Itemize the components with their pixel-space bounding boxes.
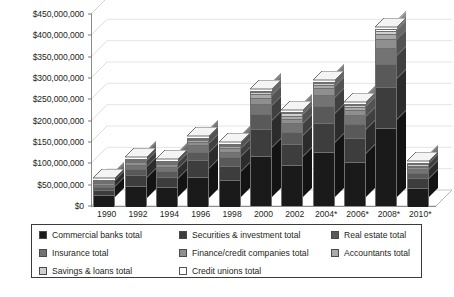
y-axis-tick: [88, 99, 92, 100]
x-axis-tick-label: 2008*: [373, 209, 404, 219]
y-axis-tick-label: $100,000,000: [33, 158, 84, 168]
y-axis-tick: [88, 14, 92, 15]
y-axis-tick: [88, 56, 92, 57]
y-axis-tick-label: $200,000,000: [33, 116, 84, 126]
y-axis-tick-label: $0: [75, 201, 84, 211]
legend-label: Real estate total: [344, 230, 406, 240]
legend-label: Finance/credit companies total: [192, 248, 309, 258]
legend-item[interactable]: Savings & loans total: [39, 266, 132, 276]
y-axis-tick: [88, 78, 92, 79]
y-axis-tick: [88, 35, 92, 36]
x-axis-tick-label: 1994: [154, 209, 185, 219]
y-axis-tick-label: $300,000,000: [33, 73, 84, 83]
y-axis-tick-label: $400,000,000: [33, 30, 84, 40]
legend-item[interactable]: Finance/credit companies total: [179, 248, 309, 258]
legend-item[interactable]: Commercial banks total: [39, 230, 142, 240]
legend-swatch: [179, 231, 187, 239]
y-axis-tick: [88, 142, 92, 143]
legend-label: Savings & loans total: [52, 266, 132, 276]
y-axis-labels: $450,000,000$400,000,000$350,000,000$300…: [0, 0, 88, 210]
x-axis-tick-label: 2006*: [342, 209, 373, 219]
legend-swatch: [331, 231, 339, 239]
legend-label: Accountants total: [344, 248, 410, 258]
legend-swatch: [331, 249, 339, 257]
x-axis-labels: 19901992199419961998200020022004*2006*20…: [91, 0, 436, 222]
x-axis-tick-label: 1998: [216, 209, 247, 219]
y-axis-tick-label: $150,000,000: [33, 137, 84, 147]
y-axis-tick: [88, 206, 92, 207]
legend-swatch: [39, 267, 47, 275]
legend-item[interactable]: Credit unions total: [179, 266, 261, 276]
legend-swatch: [39, 231, 47, 239]
x-axis-tick-label: 1992: [122, 209, 153, 219]
legend-label: Commercial banks total: [52, 230, 142, 240]
legend: Commercial banks totalSecurities & inves…: [31, 222, 423, 280]
legend-swatch: [39, 249, 47, 257]
legend-swatch: [179, 267, 187, 275]
y-axis-tick-label: $50,000,000: [37, 180, 84, 190]
legend-item[interactable]: Accountants total: [331, 248, 410, 258]
y-axis-tick-label: $250,000,000: [33, 94, 84, 104]
y-axis-tick: [88, 163, 92, 164]
legend-label: Insurance total: [52, 248, 108, 258]
legend-label: Credit unions total: [192, 266, 261, 276]
legend-item[interactable]: Insurance total: [39, 248, 108, 258]
y-axis-tick: [88, 120, 92, 121]
legend-label: Securities & investment total: [192, 230, 300, 240]
legend-swatch: [179, 249, 187, 257]
x-axis-tick-label: 2004*: [311, 209, 342, 219]
plot-area: $450,000,000$400,000,000$350,000,000$300…: [0, 0, 454, 222]
y-axis-tick: [88, 184, 92, 185]
x-axis-tick-label: 2000: [248, 209, 279, 219]
legend-item[interactable]: Real estate total: [331, 230, 406, 240]
y-axis-tick-label: $350,000,000: [33, 52, 84, 62]
stacked-column-chart: $450,000,000$400,000,000$350,000,000$300…: [0, 0, 454, 297]
x-axis-tick-label: 2002: [279, 209, 310, 219]
y-axis-tick-label: $450,000,000: [33, 9, 84, 19]
x-axis-tick-label: 1996: [185, 209, 216, 219]
legend-item[interactable]: Securities & investment total: [179, 230, 300, 240]
x-axis-tick-label: 2010*: [405, 209, 436, 219]
x-axis-tick-label: 1990: [91, 209, 122, 219]
